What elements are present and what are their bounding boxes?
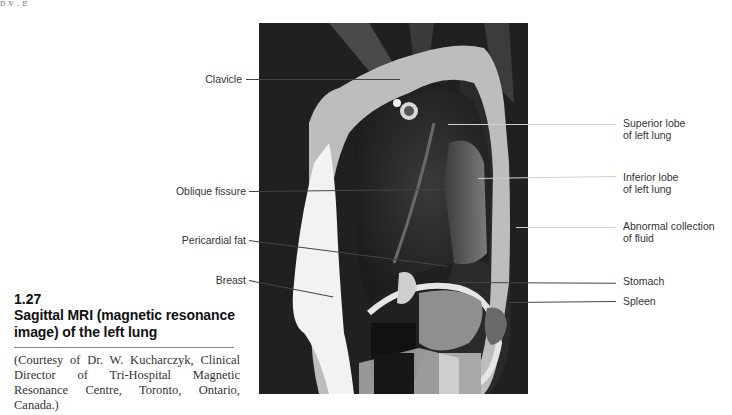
label-clavicle: Clavicle (186, 73, 242, 85)
label-superior-lobe-line1: Superior lobe (623, 117, 685, 129)
leader-spleen (509, 301, 616, 303)
leader-clavicle (246, 79, 400, 80)
figure-courtesy: (Courtesy of Dr. W. Kucharczyk, Clinical… (14, 353, 240, 413)
label-superior-lobe: Superior lobe of left lung (623, 117, 685, 141)
label-inferior-lobe-line1: Inferior lobe (623, 171, 678, 183)
leader-abnormal-fluid (516, 227, 616, 228)
page-top-text-fragment: p y , g (0, 0, 732, 6)
label-inferior-lobe-line2: of left lung (623, 183, 678, 195)
label-spleen: Spleen (623, 295, 656, 307)
figure-title: Sagittal MRI (magnetic resonance image) … (14, 307, 264, 341)
label-inferior-lobe: Inferior lobe of left lung (623, 171, 678, 195)
label-oblique-fissure: Oblique fissure (150, 185, 246, 197)
label-abnormal-fluid-line2: of fluid (623, 232, 715, 244)
leader-superior-lobe (448, 124, 616, 125)
label-superior-lobe-line2: of left lung (623, 129, 685, 141)
label-abnormal-fluid: Abnormal collection of fluid (623, 220, 715, 244)
label-stomach: Stomach (623, 275, 664, 287)
label-abnormal-fluid-line1: Abnormal collection (623, 220, 715, 232)
label-pericardial-fat: Pericardial fat (150, 234, 246, 246)
label-breast: Breast (190, 274, 246, 286)
caption-divider (14, 347, 234, 348)
figure-number: 1.27 (14, 291, 264, 307)
figure-caption: 1.27 Sagittal MRI (magnetic resonance im… (14, 291, 264, 413)
